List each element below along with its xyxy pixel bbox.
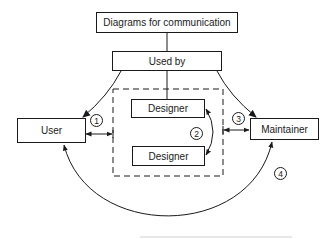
used-by-label: Used by: [149, 56, 186, 67]
title-box-label: Diagrams for communication: [103, 17, 230, 28]
diagram-canvas: Diagrams for communication Used by User …: [0, 0, 334, 239]
marker-3: 3: [232, 112, 245, 125]
marker-2: 2: [190, 127, 203, 140]
title-box: Diagrams for communication: [96, 12, 238, 33]
marker-1: 1: [90, 114, 103, 127]
designer-1-label: Designer: [148, 103, 188, 114]
marker-4: 4: [274, 167, 287, 180]
user-node: User: [17, 118, 86, 143]
designer-2-label: Designer: [148, 151, 188, 162]
maintainer-label: Maintainer: [261, 124, 308, 135]
arrow-usedby-to-user: [83, 71, 121, 117]
designer-node-1: Designer: [131, 99, 205, 118]
marker-4-label: 4: [278, 169, 283, 179]
used-by-box: Used by: [112, 51, 222, 71]
marker-1-label: 1: [94, 116, 99, 126]
arrow-2-designer-designer: [206, 109, 213, 155]
maintainer-node: Maintainer: [250, 118, 319, 140]
marker-2-label: 2: [194, 129, 199, 139]
user-label: User: [41, 125, 62, 136]
marker-3-label: 3: [236, 114, 241, 124]
designer-node-2: Designer: [132, 146, 205, 166]
